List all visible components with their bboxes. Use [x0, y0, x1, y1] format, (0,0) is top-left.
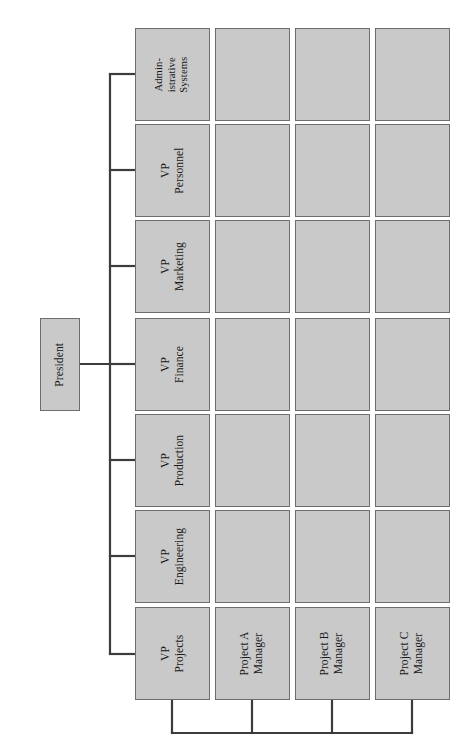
org-node-project-b-manager[interactable]: Project B Manager	[295, 607, 370, 700]
org-node-president-label: President	[53, 343, 67, 387]
org-node-vp-engineering[interactable]: VP Engineering	[135, 510, 210, 603]
org-node-president[interactable]: President	[40, 318, 80, 411]
org-node-project-a-manager[interactable]: Project A Manager	[215, 607, 290, 700]
org-node-vp-personnel-label: VP Personnel	[159, 147, 186, 193]
org-node-admin-systems-col4[interactable]	[375, 28, 450, 121]
org-node-vp-finance-col4[interactable]	[375, 318, 450, 411]
org-node-vp-personnel-col3[interactable]	[295, 124, 370, 217]
org-node-vp-personnel-col2[interactable]	[215, 124, 290, 217]
org-node-vp-projects-label: VP Projects	[159, 635, 186, 673]
org-node-vp-finance-col2[interactable]	[215, 318, 290, 411]
org-node-vp-finance[interactable]: VP Finance	[135, 318, 210, 411]
org-node-vp-production-label: VP Production	[159, 435, 186, 486]
org-chart-canvas: President Admin- istrative Systems VP Pe…	[0, 0, 469, 755]
org-node-vp-personnel[interactable]: VP Personnel	[135, 124, 210, 217]
org-node-vp-marketing-label: VP Marketing	[159, 242, 186, 291]
org-node-vp-marketing-col4[interactable]	[375, 220, 450, 313]
org-node-vp-production-col3[interactable]	[295, 414, 370, 507]
org-node-vp-personnel-col4[interactable]	[375, 124, 450, 217]
org-node-vp-finance-label: VP Finance	[159, 346, 186, 383]
org-node-project-b-manager-label: Project B Manager	[319, 631, 346, 675]
org-node-vp-marketing-col2[interactable]	[215, 220, 290, 313]
org-node-vp-engineering-col3[interactable]	[295, 510, 370, 603]
org-node-project-c-manager-label: Project C Manager	[399, 631, 426, 675]
org-node-admin-systems-col3[interactable]	[295, 28, 370, 121]
org-node-project-c-manager[interactable]: Project C Manager	[375, 607, 450, 700]
org-node-admin-systems[interactable]: Admin- istrative Systems	[135, 28, 210, 121]
org-node-vp-production-col2[interactable]	[215, 414, 290, 507]
org-node-vp-finance-col3[interactable]	[295, 318, 370, 411]
org-node-vp-projects[interactable]: VP Projects	[135, 607, 210, 700]
org-node-project-a-manager-label: Project A Manager	[239, 631, 266, 675]
org-node-admin-systems-label: Admin- istrative Systems	[154, 56, 192, 92]
org-node-vp-marketing-col3[interactable]	[295, 220, 370, 313]
org-node-vp-production-col4[interactable]	[375, 414, 450, 507]
org-node-vp-marketing[interactable]: VP Marketing	[135, 220, 210, 313]
org-node-admin-systems-col2[interactable]	[215, 28, 290, 121]
org-node-vp-engineering-col2[interactable]	[215, 510, 290, 603]
org-node-vp-engineering-col4[interactable]	[375, 510, 450, 603]
org-node-vp-production[interactable]: VP Production	[135, 414, 210, 507]
org-node-vp-engineering-label: VP Engineering	[159, 528, 186, 585]
